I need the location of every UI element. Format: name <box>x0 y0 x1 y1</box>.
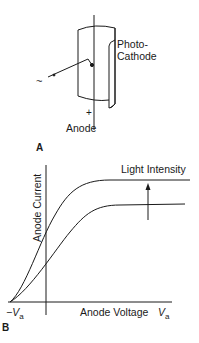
x-axis-label: Anode Voltage <box>80 306 148 318</box>
y-axis-label: Anode Current <box>31 174 43 242</box>
x-axis-var: Va <box>158 306 169 323</box>
neg-va-sub: a <box>19 312 23 321</box>
panel-b-label: B <box>2 322 9 333</box>
neg-va-label: −Va <box>6 306 24 323</box>
va-var: V <box>158 306 165 318</box>
neg-va-var: −V <box>6 306 19 318</box>
panel-a-label: A <box>36 142 43 153</box>
intensity-arrow-head <box>146 183 151 190</box>
va-sub: a <box>165 312 169 321</box>
photocathode-label: Photo- <box>117 38 148 50</box>
anode-label: Anode <box>66 122 96 134</box>
phototube-diagram <box>48 15 115 130</box>
photocathode-shape <box>78 26 115 108</box>
ac-source-icon: ~ <box>36 75 42 87</box>
photocathode-label-2: Cathode <box>117 50 157 62</box>
plus-sign: + <box>86 107 92 119</box>
light-intensity-label: Light Intensity <box>121 163 186 175</box>
